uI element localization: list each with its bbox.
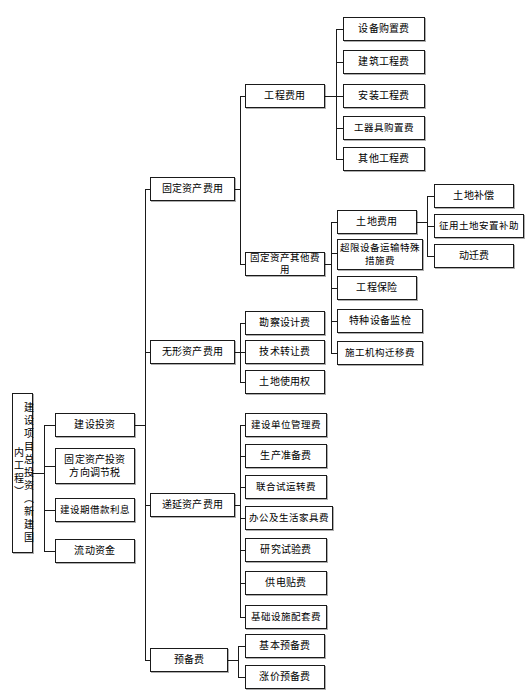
- node-construction-investment[interactable]: 建设投资: [55, 413, 135, 437]
- node-special-equipment-inspection[interactable]: 特种设备监检: [337, 309, 423, 333]
- node-fixed-asset-investment-tax-line2: 方向调节税: [69, 467, 120, 478]
- node-fixed-asset-investment-tax-line1: 固定资产投资: [64, 454, 125, 465]
- node-oversize-equipment-transport-cost-line2: 措施费: [365, 255, 395, 266]
- node-office-living-furniture-cost[interactable]: 办公及生活家具费: [245, 506, 333, 530]
- node-engineering-cost[interactable]: 工程费用: [245, 84, 325, 108]
- node-fixed-asset-other-cost[interactable]: 固定资产其他费用: [245, 252, 325, 276]
- node-technology-transfer-cost[interactable]: 技术转让费: [245, 340, 325, 364]
- node-production-preparation-cost[interactable]: 生产准备费: [245, 444, 327, 468]
- node-power-supply-subsidy[interactable]: 供电贴费: [245, 571, 327, 595]
- node-relocation-cost[interactable]: 动迁费: [434, 244, 514, 268]
- node-engineering-insurance[interactable]: 工程保险: [337, 276, 417, 300]
- node-equipment-purchase-cost[interactable]: 设备购置费: [343, 17, 425, 41]
- node-construction-loan-interest[interactable]: 建设期借款利息: [55, 498, 135, 522]
- node-other-engineering-cost[interactable]: 其他工程费: [343, 147, 425, 171]
- node-infrastructure-supporting-cost[interactable]: 基础设施配套费: [245, 605, 327, 629]
- node-price-increase-reserve-cost[interactable]: 涨价预备费: [245, 665, 325, 689]
- node-intangible-asset-cost[interactable]: 无形资产费用: [150, 340, 235, 364]
- node-building-engineering-cost[interactable]: 建筑工程费: [343, 50, 425, 74]
- node-research-experiment-cost[interactable]: 研究试验费: [245, 538, 327, 562]
- node-installation-engineering-cost[interactable]: 安装工程费: [343, 84, 425, 108]
- node-joint-trial-operation-cost[interactable]: 联合试运转费: [245, 475, 327, 499]
- node-land-requisition-resettlement-subsidy[interactable]: 征用土地安置补助: [434, 214, 524, 238]
- node-working-capital[interactable]: 流动资金: [55, 539, 135, 563]
- node-land-compensation[interactable]: 土地补偿: [434, 184, 514, 208]
- node-survey-design-cost[interactable]: 勘察设计费: [245, 311, 325, 335]
- node-land-use-right[interactable]: 土地使用权: [245, 370, 325, 394]
- node-construction-unit-management-cost[interactable]: 建设单位管理费: [245, 413, 327, 437]
- node-land-cost[interactable]: 土地费用: [337, 210, 417, 234]
- node-fixed-asset-cost[interactable]: 固定资产费用: [150, 177, 235, 201]
- node-oversize-equipment-transport-cost-line1: 超限设备运输特殊: [340, 242, 420, 253]
- node-deferred-asset-cost[interactable]: 递延资产费用: [150, 493, 235, 517]
- node-fixed-asset-investment-tax[interactable]: 固定资产投资 方向调节税: [55, 448, 135, 484]
- node-oversize-equipment-transport-cost[interactable]: 超限设备运输特殊 措施费: [337, 239, 423, 270]
- org-tree-diagram: 建设项目总投资（新建国内工程） 建设投资 固定资产投资 方向调节税 建设期借款利…: [0, 0, 529, 698]
- node-tools-purchase-cost[interactable]: 工器具购置费: [343, 116, 425, 140]
- node-basic-reserve-cost[interactable]: 基本预备费: [245, 634, 325, 658]
- node-reserve-cost[interactable]: 预备费: [150, 648, 228, 672]
- node-construction-org-relocation-cost[interactable]: 施工机构迁移费: [337, 341, 423, 365]
- node-root[interactable]: 建设项目总投资（新建国内工程）: [12, 393, 33, 553]
